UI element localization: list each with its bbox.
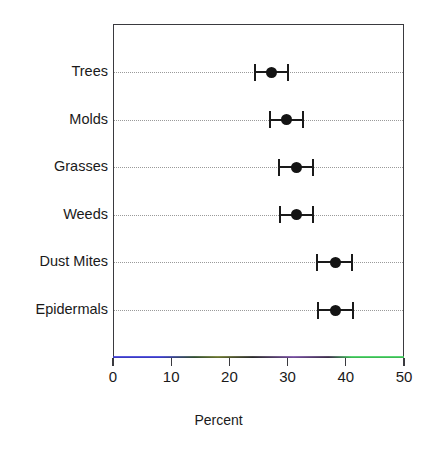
- x-axis-tick-30: [287, 358, 288, 366]
- point-marker-weeds: [291, 209, 302, 220]
- point-marker-trees: [266, 67, 277, 78]
- error-bar-lower-cap-grasses: [278, 159, 280, 176]
- plot-area: [113, 24, 404, 358]
- x-axis-tick-label-30: 30: [268, 368, 308, 386]
- x-axis-tick-50: [403, 358, 404, 366]
- x-axis-tick-label-50: 50: [384, 368, 424, 386]
- x-axis-tick-10: [171, 358, 172, 366]
- x-axis-tick-0: [112, 358, 113, 366]
- x-axis-title: Percent: [0, 412, 437, 428]
- x-axis-tick-20: [229, 358, 230, 366]
- axis-color-line: [113, 356, 404, 358]
- gridline-grasses: [114, 167, 403, 168]
- gridline-weeds: [114, 215, 403, 216]
- error-bar-upper-cap-trees: [287, 64, 289, 81]
- error-bar-lower-cap-molds: [269, 111, 271, 128]
- error-bar-upper-cap-grasses: [312, 159, 314, 176]
- error-bar-upper-cap-weeds: [312, 206, 314, 223]
- y-axis-label-weeds: Weeds: [0, 206, 108, 222]
- error-bar-upper-cap-molds: [302, 111, 304, 128]
- gridline-molds: [114, 120, 403, 121]
- error-bar-lower-cap-epidermals: [317, 302, 319, 319]
- y-axis-label-dust-mites: Dust Mites: [0, 253, 108, 269]
- gridline-epidermals: [114, 310, 403, 311]
- error-bar-lower-cap-dust-mites: [316, 254, 318, 271]
- gridline-dust-mites: [114, 262, 403, 263]
- y-axis-label-molds: Molds: [0, 111, 108, 127]
- x-axis-tick-label-40: 40: [326, 368, 366, 386]
- error-bar-lower-cap-trees: [254, 64, 256, 81]
- point-marker-grasses: [291, 162, 302, 173]
- y-axis-label-epidermals: Epidermals: [0, 301, 108, 317]
- error-bar-lower-cap-weeds: [279, 206, 281, 223]
- y-axis-label-trees: Trees: [0, 63, 108, 79]
- dot-plot-figure: 01020304050 TreesMoldsGrassesWeedsDust M…: [0, 0, 437, 452]
- point-marker-dust-mites: [330, 257, 341, 268]
- point-marker-epidermals: [330, 305, 341, 316]
- x-axis-tick-label-0: 0: [93, 368, 133, 386]
- error-bar-upper-cap-dust-mites: [351, 254, 353, 271]
- error-bar-upper-cap-epidermals: [352, 302, 354, 319]
- point-marker-molds: [281, 114, 292, 125]
- x-axis-tick-label-10: 10: [151, 368, 191, 386]
- x-axis-tick-40: [345, 358, 346, 366]
- page-title: [0, 0, 437, 5]
- y-axis-label-grasses: Grasses: [0, 158, 108, 174]
- x-axis-tick-label-20: 20: [209, 368, 249, 386]
